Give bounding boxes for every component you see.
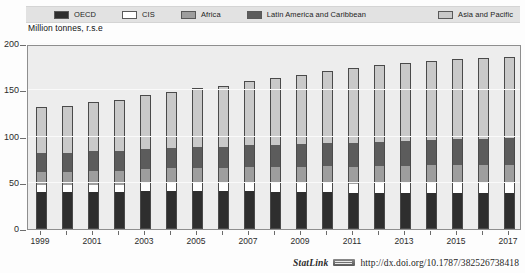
bar-segment-cis [374, 183, 385, 193]
bar-segment-cis [36, 185, 47, 192]
bar-segment-asia-and-pacific [348, 68, 359, 143]
chart-figure: OECDCISAfricaLatin America and Caribbean… [0, 0, 525, 273]
x-axis-tick [378, 231, 379, 235]
bar-segment-asia-and-pacific [36, 107, 47, 153]
x-axis-tick [274, 231, 275, 235]
bar-segment-cis [270, 183, 281, 192]
bar-2013[interactable] [400, 63, 411, 230]
bar-segment-oecd [348, 193, 359, 229]
bar-segment-asia-and-pacific [322, 71, 333, 143]
x-axis-tick [352, 231, 353, 235]
bar-segment-cis [478, 183, 489, 193]
bar-segment-latin-america-and-caribbean [88, 151, 99, 170]
bar-2014[interactable] [426, 61, 437, 229]
bar-2011[interactable] [348, 68, 359, 229]
x-axis-tick [404, 231, 405, 235]
bar-segment-cis [218, 183, 229, 191]
bar-2016[interactable] [478, 58, 489, 229]
bar-segment-cis [140, 183, 151, 191]
x-axis-tick [66, 231, 67, 235]
legend-swatch-icon [438, 11, 453, 19]
bar-segment-latin-america-and-caribbean [296, 144, 307, 167]
bar-2000[interactable] [62, 106, 73, 229]
bar-segment-asia-and-pacific [140, 95, 151, 149]
bar-segment-latin-america-and-caribbean [62, 153, 73, 172]
legend-item-label: Latin America and Caribbean [267, 10, 366, 19]
legend-swatch-icon [54, 11, 69, 19]
bar-segment-oecd [270, 192, 281, 229]
legend-item-cis[interactable]: CIS [122, 7, 155, 22]
bar-2002[interactable] [114, 100, 125, 229]
y-axis-tick [20, 91, 26, 92]
doi-link[interactable]: http://dx.doi.org/10.1787/382526738418 [360, 258, 519, 268]
legend-item-oecd[interactable]: OECD [54, 7, 96, 22]
bar-segment-asia-and-pacific [166, 92, 177, 148]
y-axis-tick-label: 150 [0, 85, 19, 95]
bar-segment-latin-america-and-caribbean [452, 139, 463, 165]
bar-2015[interactable] [452, 59, 463, 229]
bar-segment-asia-and-pacific [504, 57, 515, 138]
x-axis-tick [482, 231, 483, 235]
bar-segment-latin-america-and-caribbean [478, 139, 489, 165]
plot-area [27, 45, 521, 230]
legend-item-latin-america-and-caribbean[interactable]: Latin America and Caribbean [247, 7, 366, 22]
x-axis-tick [222, 231, 223, 235]
bar-series-container [28, 46, 520, 229]
bar-segment-cis [114, 185, 125, 192]
bar-segment-asia-and-pacific [452, 59, 463, 139]
y-axis-tick [20, 45, 26, 46]
bar-segment-cis [322, 183, 333, 192]
bar-2009[interactable] [296, 75, 307, 229]
bar-segment-africa [374, 166, 385, 183]
bar-2010[interactable] [322, 71, 333, 229]
bar-2006[interactable] [218, 86, 229, 229]
bar-segment-oecd [504, 193, 515, 229]
legend-item-label: OECD [74, 10, 96, 19]
figure-footer: StatLink http://dx.doi.org/10.1787/38252… [0, 252, 525, 273]
x-axis-tick [144, 231, 145, 235]
bar-2007[interactable] [244, 81, 255, 229]
gridline [28, 136, 520, 137]
bar-segment-latin-america-and-caribbean [374, 142, 385, 166]
bar-segment-latin-america-and-caribbean [270, 145, 281, 167]
x-axis-tick-label: 2011 [343, 236, 361, 246]
gridline [28, 182, 520, 183]
bar-1999[interactable] [36, 107, 47, 229]
gridline [28, 43, 520, 44]
bar-segment-latin-america-and-caribbean [192, 147, 203, 168]
bar-segment-cis [426, 183, 437, 193]
bar-2005[interactable] [192, 88, 203, 229]
bar-segment-cis [348, 184, 359, 193]
bar-segment-asia-and-pacific [88, 102, 99, 151]
y-axis-tick [20, 230, 26, 231]
x-axis-tick [508, 231, 509, 235]
bar-segment-oecd [114, 192, 125, 229]
x-axis-tick-label: 2005 [187, 236, 206, 246]
bar-segment-oecd [166, 191, 177, 229]
bar-segment-cis [88, 185, 99, 192]
bar-2001[interactable] [88, 102, 99, 229]
bar-segment-oecd [36, 192, 47, 229]
bar-segment-africa [322, 166, 333, 183]
bar-segment-asia-and-pacific [192, 88, 203, 146]
bar-segment-asia-and-pacific [296, 75, 307, 144]
bar-2003[interactable] [140, 95, 151, 229]
y-axis-tick-label: 200 [0, 39, 19, 49]
bar-segment-africa [166, 168, 177, 183]
legend-item-africa[interactable]: Africa [181, 7, 221, 22]
bar-segment-cis [244, 183, 255, 191]
bar-2004[interactable] [166, 92, 177, 229]
legend-item-label: Africa [201, 10, 221, 19]
legend-item-label: Asia and Pacific [458, 10, 513, 19]
bar-segment-latin-america-and-caribbean [140, 149, 151, 169]
barcode-icon [333, 259, 355, 266]
bar-2008[interactable] [270, 78, 281, 229]
x-axis-tick-label: 1999 [31, 236, 50, 246]
bar-segment-cis [400, 183, 411, 193]
legend-item-asia-and-pacific[interactable]: Asia and Pacific [438, 7, 513, 22]
x-axis-tick-label: 2013 [395, 236, 414, 246]
bar-segment-asia-and-pacific [114, 100, 125, 151]
bar-2017[interactable] [504, 57, 515, 229]
bar-segment-latin-america-and-caribbean [166, 148, 177, 168]
bar-segment-oecd [374, 193, 385, 229]
